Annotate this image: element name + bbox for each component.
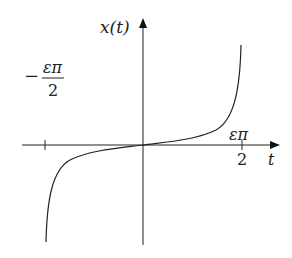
left-fraction-denominator: 2: [48, 81, 58, 100]
left-fraction-numerator: επ: [43, 58, 63, 77]
x-axis-label: t: [268, 150, 275, 169]
y-axis-label: x(t): [100, 17, 130, 37]
right-fraction-numerator: επ: [229, 125, 249, 144]
left-minus-sign: −: [24, 65, 39, 86]
plot: x(t) t − επ 2 επ 2: [0, 0, 292, 258]
right-fraction-denominator: 2: [237, 150, 247, 169]
